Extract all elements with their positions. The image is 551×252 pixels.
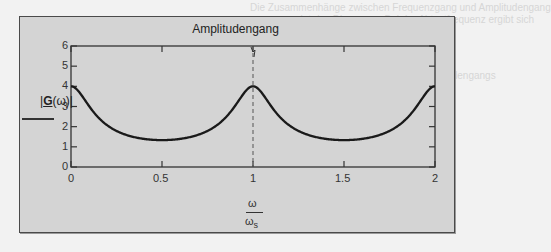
x-axis-label-denominator: ωs	[245, 215, 258, 230]
plot-border	[71, 46, 435, 167]
y-axis-label-underline	[22, 118, 54, 120]
x-axis-label-fraction-bar	[246, 212, 263, 213]
x-tick-label: 1.5	[335, 172, 350, 184]
y-tick-label: 2	[62, 120, 68, 132]
x-tick-label: 1	[250, 172, 256, 184]
y-tick-label: 4	[62, 79, 68, 91]
x-axis-label-numerator: ω	[248, 197, 257, 209]
x-tick-label: 0	[68, 172, 74, 184]
x-tick-label: 0.5	[153, 172, 168, 184]
y-tick-label: 6	[62, 39, 68, 51]
y-axis-label: |G(ω)|	[40, 94, 73, 108]
x-ticks	[71, 46, 435, 167]
y-tick-label: 0	[62, 160, 68, 172]
y-ticks	[71, 46, 435, 167]
y-tick-label: 5	[62, 59, 68, 71]
x-tick-label: 2	[432, 172, 438, 184]
y-tick-label: 1	[62, 140, 68, 152]
